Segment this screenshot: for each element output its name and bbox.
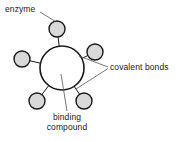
- binding-compound-node[interactable]: [40, 46, 84, 90]
- label-binding-compound: binding compound: [34, 112, 100, 132]
- label-binding-compound-line1: binding: [34, 112, 100, 122]
- diagram-page: enzyme covalent bonds binding compound: [0, 0, 178, 142]
- enzyme-node-lower-left[interactable]: [29, 93, 45, 109]
- enzyme-node-lower-right[interactable]: [76, 93, 92, 109]
- enzyme-node-top[interactable]: [49, 21, 65, 37]
- leader-line-enzyme: [40, 12, 56, 22]
- label-enzyme: enzyme: [5, 4, 35, 14]
- enzyme-node-left[interactable]: [14, 51, 30, 67]
- enzyme-node-upper-right[interactable]: [87, 44, 103, 60]
- label-binding-compound-line2: compound: [34, 122, 100, 132]
- label-covalent-bonds: covalent bonds: [110, 62, 169, 72]
